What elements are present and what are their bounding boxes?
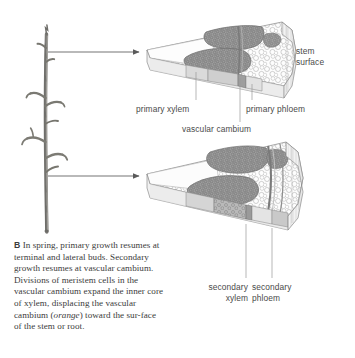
figure-caption: B In spring, primary growth resumes at t… xyxy=(14,240,166,333)
label-stem-surface: stem surface xyxy=(296,46,324,67)
label-primary-phloem: primary phloem xyxy=(246,104,305,115)
figure-secondary-growth: stem surface primary xylem primary phloe… xyxy=(0,0,355,358)
caption-text-before: In spring, primary growth resumes at ter… xyxy=(14,240,163,320)
secondary-growth-wedge xyxy=(147,142,303,230)
twig-photograph xyxy=(22,25,67,233)
caption-italic-word: orange xyxy=(54,310,80,320)
callout-arrows xyxy=(48,52,139,176)
primary-growth-wedge xyxy=(147,22,296,98)
label-secondary-xylem: secondary xylem xyxy=(196,282,248,303)
label-primary-xylem: primary xylem xyxy=(136,104,189,115)
caption-panel-letter: B xyxy=(14,240,20,250)
label-secondary-phloem: secondary phloem xyxy=(252,282,308,303)
label-vascular-cambium: vascular cambium xyxy=(182,124,251,135)
lower-wedge-leader-lines xyxy=(246,224,272,278)
